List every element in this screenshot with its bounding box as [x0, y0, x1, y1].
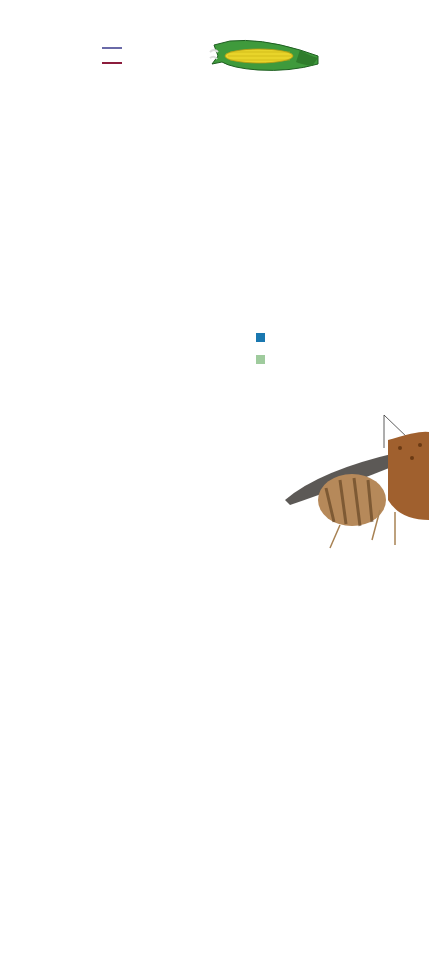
legend-low-line-swatch [256, 355, 265, 364]
corn-icon [210, 40, 318, 70]
top-legend [102, 48, 122, 63]
oil-content-chart [0, 0, 429, 270]
bottom-legend [256, 333, 265, 364]
fly-image [285, 415, 429, 548]
legend-high-line-swatch [256, 333, 265, 342]
